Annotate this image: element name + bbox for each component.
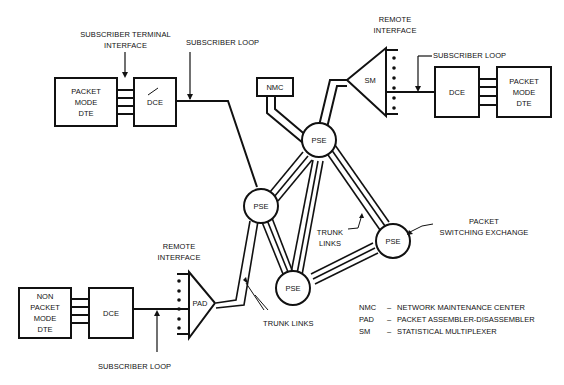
remote-interface-bottom-label: REMOTE INTERFACE [148,241,210,263]
legend: NMC – NETWORK MAINTENANCE CENTER PAD – P… [359,302,535,338]
trunk-links-bottom-label: TRUNK LINKS [263,318,314,329]
legend-text: PACKET ASSEMBLER-DISASSEMBLER [397,314,535,326]
legend-abbr: NMC [359,302,387,314]
legend-abbr: SM [359,326,387,338]
dte-bottom-line-2: PACKET [30,302,59,313]
legend-text: STATISTICAL MULTIPLEXER [397,326,497,338]
subscriber-loop-right-label: SUBSCRIBER LOOP [433,50,506,61]
tl-line-1: TRUNK [310,227,350,238]
dte-right-line-2: MODE [509,87,538,98]
subscriber-terminal-interface-label: SUBSCRIBER TERMINAL INTERFACE [68,29,183,51]
pse-desc-line-1: PACKET [434,216,534,227]
dce-bottom-label: DCE [89,288,133,338]
packet-mode-dte-top-label: PACKETMODEDTE [55,78,117,126]
tl-line-2: LINKS [310,238,350,249]
subscriber-loop-top-label: SUBSCRIBER LOOP [186,37,259,48]
ri-top-line-1: REMOTE [364,14,426,25]
pse-top-label: PSE [302,134,336,146]
pad-label: PAD [189,297,211,309]
sti-line-1: SUBSCRIBER TERMINAL [68,29,183,40]
legend-row-sm: SM – STATISTICAL MULTIPLEXER [359,326,535,338]
dte-bottom-line-4: DTE [30,324,59,335]
pse-bottom-label: PSE [276,282,310,294]
dte-top-line-2: MODE [71,97,100,108]
legend-dash: – [387,302,397,314]
dte-bottom-line-3: MODE [30,313,59,324]
legend-row-pad: PAD – PACKET ASSEMBLER-DISASSEMBLER [359,314,535,326]
legend-dash: – [387,314,397,326]
dte-right-line-3: DTE [509,98,538,109]
ri-top-line-2: INTERFACE [364,25,426,36]
trunk-links-center-label: TRUNK LINKS [310,227,350,249]
packet-switching-exchange-label: PACKET SWITCHING EXCHANGE [434,216,534,238]
dce-right-label: DCE [435,67,479,117]
nmc-label: NMC [257,78,293,96]
ri-bottom-line-2: INTERFACE [148,252,210,263]
dte-top-line-1: PACKET [71,86,100,97]
dce-top-label: DCE [134,78,176,126]
legend-dash: – [387,326,397,338]
ri-bottom-line-1: REMOTE [148,241,210,252]
legend-row-nmc: NMC – NETWORK MAINTENANCE CENTER [359,302,535,314]
pse-right-label: PSE [376,235,410,247]
dte-bottom-line-1: NON [30,291,59,302]
remote-interface-top-label: REMOTE INTERFACE [364,14,426,36]
legend-abbr: PAD [359,314,387,326]
non-packet-mode-dte-label: NONPACKETMODEDTE [19,288,71,338]
dte-top-line-3: DTE [71,108,100,119]
dte-right-line-1: PACKET [509,76,538,87]
pse-desc-line-2: SWITCHING EXCHANGE [434,227,534,238]
pse-left-label: PSE [244,200,278,212]
sm-label: SM [360,74,380,86]
legend-text: NETWORK MAINTENANCE CENTER [397,302,525,314]
sti-line-2: INTERFACE [68,40,183,51]
subscriber-loop-bottom-label: SUBSCRIBER LOOP [98,361,171,372]
packet-mode-dte-right-label: PACKETMODEDTE [497,67,551,117]
